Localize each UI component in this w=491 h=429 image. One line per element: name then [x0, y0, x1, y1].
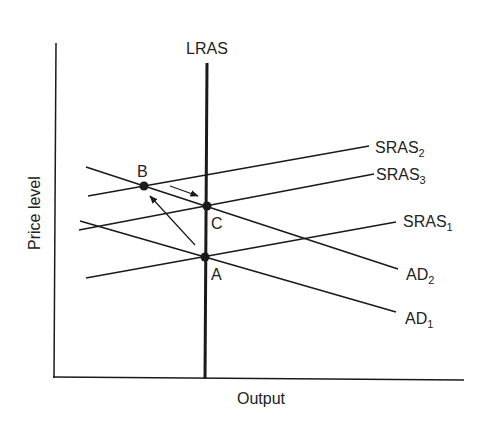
ad2-line — [86, 167, 398, 269]
sras3-label: SRAS3 — [376, 166, 426, 186]
arrow-b-to-c — [170, 186, 198, 196]
point-c-label: C — [211, 215, 223, 232]
point-a — [201, 253, 210, 262]
y-axis-label: Price level — [26, 176, 43, 250]
sras2-label: SRAS2 — [375, 139, 425, 159]
point-c — [203, 202, 212, 211]
x-axis — [53, 377, 464, 380]
y-axis — [54, 43, 56, 378]
sras3-line — [79, 174, 374, 230]
ad-as-diagram: LRAS SRAS2 SRAS3 SRAS1 AD2 AD1 B C A Out… — [0, 0, 491, 429]
arrow-a-to-b — [150, 196, 195, 245]
ad1-label: AD1 — [405, 310, 433, 330]
sras2-line — [88, 146, 369, 196]
point-b-label: B — [137, 163, 148, 180]
point-b — [140, 182, 149, 191]
ad2-label: AD2 — [406, 266, 434, 286]
lras-label: LRAS — [186, 40, 228, 57]
sras1-label: SRAS1 — [403, 213, 453, 233]
point-a-label: A — [211, 266, 222, 283]
sras1-line — [86, 222, 396, 278]
x-axis-label: Output — [237, 390, 286, 407]
ad1-line — [80, 221, 396, 312]
lras-line — [205, 63, 207, 379]
